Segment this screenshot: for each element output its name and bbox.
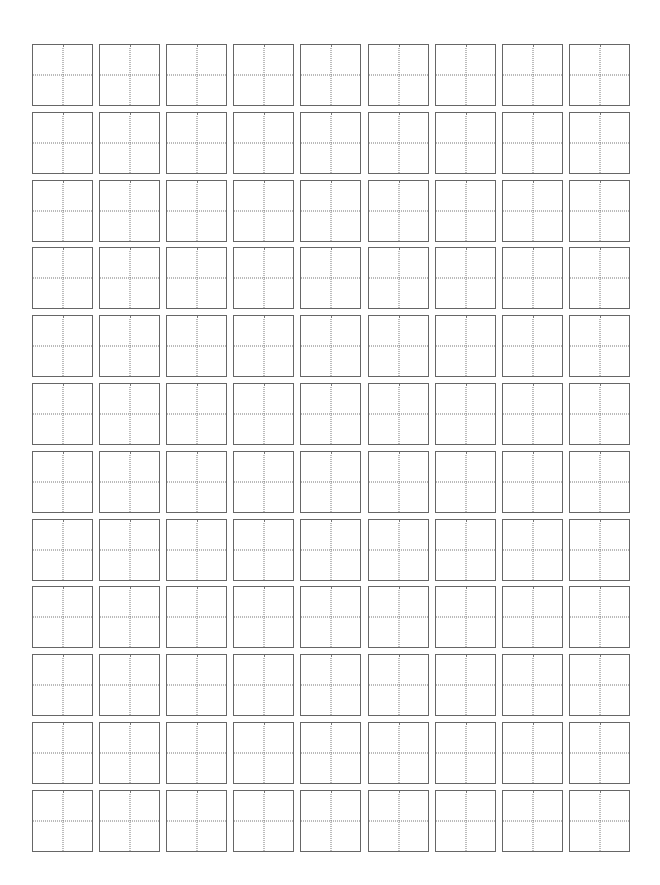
horizontal-guide-line <box>33 75 92 76</box>
horizontal-guide-line <box>167 278 226 279</box>
grid-cell <box>300 722 361 784</box>
grid-cell <box>233 451 294 513</box>
grid-cell <box>166 44 227 106</box>
grid-cell <box>99 451 160 513</box>
grid-cell <box>569 247 630 309</box>
horizontal-guide-line <box>570 617 629 618</box>
horizontal-guide-line <box>100 278 159 279</box>
horizontal-guide-line <box>301 278 360 279</box>
grid-cell <box>99 654 160 716</box>
grid-cell <box>368 519 429 581</box>
grid-cell <box>569 586 630 648</box>
grid-cell <box>32 790 93 852</box>
horizontal-guide-line <box>100 414 159 415</box>
grid-cell <box>300 44 361 106</box>
horizontal-guide-line <box>503 550 562 551</box>
horizontal-guide-line <box>33 414 92 415</box>
horizontal-guide-line <box>570 753 629 754</box>
grid-cell <box>502 586 563 648</box>
horizontal-guide-line <box>436 617 495 618</box>
horizontal-guide-line <box>436 211 495 212</box>
grid-cell <box>569 112 630 174</box>
horizontal-guide-line <box>100 211 159 212</box>
grid-cell <box>435 451 496 513</box>
grid-cell <box>502 790 563 852</box>
grid-cell <box>569 383 630 445</box>
grid-cell <box>166 315 227 377</box>
grid-cell <box>368 247 429 309</box>
horizontal-guide-line <box>503 211 562 212</box>
horizontal-guide-line <box>234 550 293 551</box>
grid-cell <box>368 180 429 242</box>
horizontal-guide-line <box>503 753 562 754</box>
grid-cell <box>435 180 496 242</box>
horizontal-guide-line <box>33 685 92 686</box>
horizontal-guide-line <box>301 821 360 822</box>
horizontal-guide-line <box>369 143 428 144</box>
grid-cell <box>166 586 227 648</box>
horizontal-guide-line <box>436 550 495 551</box>
grid-cell <box>569 44 630 106</box>
grid-cell <box>166 180 227 242</box>
grid-cell <box>435 247 496 309</box>
horizontal-guide-line <box>301 75 360 76</box>
horizontal-guide-line <box>167 346 226 347</box>
horizontal-guide-line <box>100 753 159 754</box>
grid-cell <box>300 654 361 716</box>
grid-cell <box>368 315 429 377</box>
horizontal-guide-line <box>100 617 159 618</box>
grid-cell <box>99 247 160 309</box>
grid-cell <box>300 586 361 648</box>
grid-cell <box>435 44 496 106</box>
horizontal-guide-line <box>167 753 226 754</box>
grid-cell <box>233 180 294 242</box>
horizontal-guide-line <box>570 550 629 551</box>
grid-cell <box>233 44 294 106</box>
grid-cell <box>233 247 294 309</box>
horizontal-guide-line <box>369 482 428 483</box>
horizontal-guide-line <box>369 550 428 551</box>
horizontal-guide-line <box>167 75 226 76</box>
grid-cell <box>368 451 429 513</box>
horizontal-guide-line <box>234 414 293 415</box>
horizontal-guide-line <box>301 143 360 144</box>
horizontal-guide-line <box>503 143 562 144</box>
horizontal-guide-line <box>167 211 226 212</box>
horizontal-guide-line <box>33 482 92 483</box>
horizontal-guide-line <box>369 753 428 754</box>
grid-cell <box>502 519 563 581</box>
grid-cell <box>32 247 93 309</box>
grid-cell <box>569 451 630 513</box>
horizontal-guide-line <box>167 414 226 415</box>
grid-cell <box>300 790 361 852</box>
grid-cell <box>502 44 563 106</box>
horizontal-guide-line <box>100 821 159 822</box>
grid-cell <box>233 654 294 716</box>
grid-cell <box>99 383 160 445</box>
grid-cell <box>368 586 429 648</box>
grid-cell <box>569 722 630 784</box>
horizontal-guide-line <box>167 143 226 144</box>
grid-cell <box>435 112 496 174</box>
grid-cell <box>300 180 361 242</box>
grid-cell <box>99 790 160 852</box>
grid-cell <box>32 586 93 648</box>
horizontal-guide-line <box>503 685 562 686</box>
horizontal-guide-line <box>301 685 360 686</box>
horizontal-guide-line <box>33 821 92 822</box>
horizontal-guide-line <box>503 482 562 483</box>
horizontal-guide-line <box>234 685 293 686</box>
grid-cell <box>166 654 227 716</box>
grid-cell <box>569 790 630 852</box>
grid-cell <box>233 586 294 648</box>
grid-cell <box>300 315 361 377</box>
grid-cell <box>166 383 227 445</box>
horizontal-guide-line <box>234 346 293 347</box>
horizontal-guide-line <box>167 482 226 483</box>
horizontal-guide-line <box>436 753 495 754</box>
grid-cell <box>32 112 93 174</box>
grid-cell <box>99 586 160 648</box>
grid-cell <box>368 383 429 445</box>
horizontal-guide-line <box>33 753 92 754</box>
horizontal-guide-line <box>167 550 226 551</box>
